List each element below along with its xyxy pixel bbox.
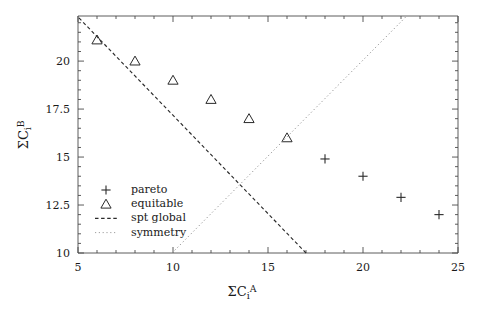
x-tick-label-20: 20 [356,261,370,274]
legend-label-equitable: equitable [131,197,183,210]
datapoint-equitable-1 [130,56,140,65]
legend-label-symmetry: symmetry [131,226,186,239]
datapoint-pareto-0 [320,154,329,163]
y-axis-title-base: C [16,130,31,140]
legend-symbols [95,185,117,232]
plot-canvas [0,0,484,312]
datapoint-pareto-2 [396,193,405,202]
legend-marker-plus-icon [101,185,110,194]
legend-label-spt-global: spt global [131,211,186,224]
x-tick-label-5: 5 [75,261,82,274]
x-tick-label-25: 25 [451,261,465,274]
y-axis-title-wrap: ΣCiB [4,108,44,168]
x-tick-label-10: 10 [166,261,180,274]
x-axis-title-base: C [237,284,247,299]
x-axis-title-superscript: A [250,283,257,294]
datapoint-equitable-3 [206,94,216,103]
y-axis-title-superscript: B [15,120,26,127]
datapoint-pareto-1 [358,172,367,181]
datapoint-equitable-5 [282,133,292,142]
x-axis-title-sigma: Σ [228,284,237,299]
datapoint-pareto-3 [434,210,443,219]
line-spt-global [79,18,306,253]
y-axis-title-sigma: Σ [16,140,31,149]
y-tick-label-10: 10 [34,247,70,260]
datapoint-equitable-2 [168,75,178,84]
line-symmetry [172,16,407,253]
y-tick-label-20: 20 [34,55,70,68]
x-axis-title: ΣCiA [0,283,484,301]
y-tick-label-12.5: 12.5 [34,199,70,212]
legend-label-pareto: pareto [131,183,167,196]
datapoint-equitable-4 [244,114,254,123]
y-axis-title: ΣCiB [15,103,33,167]
x-tick-label-15: 15 [261,261,275,274]
legend-marker-triangle-icon [101,199,111,208]
scatter-chart-figure: 5101520251012.51517.520 paretoequitables… [0,0,484,312]
y-axis-title-subscript: i [22,127,33,130]
